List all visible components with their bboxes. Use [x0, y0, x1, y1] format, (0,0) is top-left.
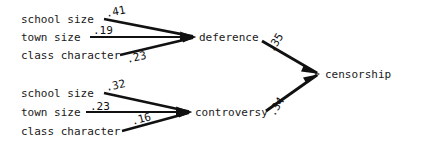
path-diagram: school size town size class character sc…	[0, 0, 422, 146]
coefficient-school-size-deference: .41	[105, 4, 127, 19]
node-school-size-bottom: school size	[21, 88, 94, 99]
coefficient-town-size-deference: .19	[93, 25, 113, 36]
node-deference: deference	[199, 32, 259, 43]
node-class-character-bottom: class character	[21, 126, 120, 137]
node-town-size-top: town size	[21, 32, 81, 43]
node-controversy: controversy	[195, 107, 268, 118]
node-school-size-top: school size	[21, 14, 94, 25]
node-censorship: censorship	[325, 69, 391, 80]
coefficient-town-size-controversy: .23	[90, 101, 110, 112]
node-class-character-top: class character	[21, 50, 120, 61]
node-town-size-bottom: town size	[21, 107, 81, 118]
